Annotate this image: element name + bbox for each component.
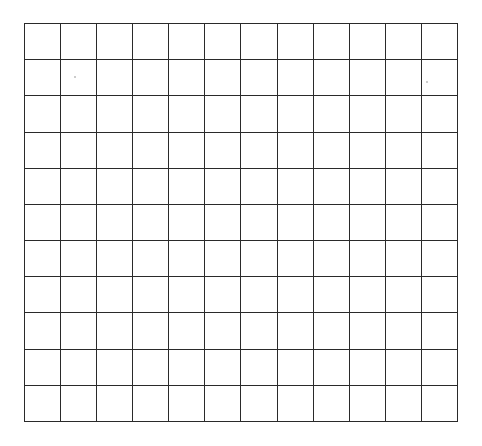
grid-cell: [132, 240, 168, 276]
grid-cell: [24, 23, 60, 59]
grid-cell: [132, 168, 168, 204]
grid-cell: [421, 168, 457, 204]
grid-cell: [349, 240, 385, 276]
grid-cell: [24, 312, 60, 348]
grid-cell: [204, 95, 240, 131]
grid-cell: [60, 168, 96, 204]
grid-cell: [24, 168, 60, 204]
grid-cell: [385, 349, 421, 385]
grid-cell: [385, 312, 421, 348]
grid-cell: [96, 240, 132, 276]
grid-cell: [277, 312, 313, 348]
grid-cell: [385, 132, 421, 168]
grid-cell: [96, 349, 132, 385]
grid-cell: [349, 59, 385, 95]
grid-cell: [204, 23, 240, 59]
grid-cell: [24, 132, 60, 168]
grid-cell: [349, 349, 385, 385]
grid-cell: [96, 132, 132, 168]
grid-cell: [277, 23, 313, 59]
grid-cell: [313, 240, 349, 276]
grid-cell: [240, 59, 276, 95]
grid-cell: [204, 385, 240, 421]
grid-cell: [132, 204, 168, 240]
grid-cell: [204, 312, 240, 348]
speck-mark: [426, 81, 428, 83]
grid-cell: [240, 132, 276, 168]
grid-cell: [240, 385, 276, 421]
grid-cell: [421, 204, 457, 240]
grid-cell: [240, 312, 276, 348]
blank-grid: [24, 23, 458, 422]
grid-cell: [132, 349, 168, 385]
grid-cell: [240, 240, 276, 276]
grid-cell: [60, 132, 96, 168]
grid-cell: [168, 132, 204, 168]
grid-cell: [277, 59, 313, 95]
grid-cell: [277, 204, 313, 240]
grid-cell: [132, 95, 168, 131]
grid-cell: [385, 95, 421, 131]
grid-cell: [24, 240, 60, 276]
grid-cell: [96, 168, 132, 204]
grid-cell: [132, 385, 168, 421]
grid-cell: [421, 312, 457, 348]
grid-cell: [60, 59, 96, 95]
grid-cell: [421, 23, 457, 59]
grid-cell: [60, 312, 96, 348]
grid-cell: [60, 204, 96, 240]
grid-cell: [96, 385, 132, 421]
grid-cell: [60, 385, 96, 421]
grid-cell: [385, 276, 421, 312]
grid-cell: [204, 349, 240, 385]
grid-cell: [60, 23, 96, 59]
grid-cell: [240, 168, 276, 204]
grid-cell: [24, 95, 60, 131]
grid-cell: [421, 59, 457, 95]
grid-cell: [385, 23, 421, 59]
grid-cell: [313, 95, 349, 131]
grid-cell: [385, 59, 421, 95]
grid-cell: [204, 59, 240, 95]
grid-cell: [132, 312, 168, 348]
grid-cell: [24, 385, 60, 421]
grid-cell: [132, 59, 168, 95]
grid-cell: [313, 132, 349, 168]
grid-cell: [277, 385, 313, 421]
grid-cell: [277, 349, 313, 385]
grid-cell: [204, 132, 240, 168]
grid-cell: [349, 23, 385, 59]
grid-cell: [385, 385, 421, 421]
grid-cell: [313, 312, 349, 348]
grid-cell: [96, 23, 132, 59]
grid-cell: [168, 276, 204, 312]
grid-cell: [96, 95, 132, 131]
grid-cell: [349, 276, 385, 312]
grid-cell: [421, 132, 457, 168]
grid-cell: [168, 349, 204, 385]
grid-cell: [421, 349, 457, 385]
grid-cell: [240, 23, 276, 59]
grid-cell: [313, 59, 349, 95]
grid-cell: [132, 132, 168, 168]
grid-cell: [168, 312, 204, 348]
grid-cell: [132, 23, 168, 59]
grid-cell: [313, 168, 349, 204]
grid-cell: [313, 276, 349, 312]
grid-cell: [204, 204, 240, 240]
grid-cell: [313, 349, 349, 385]
grid-cell: [168, 23, 204, 59]
grid-cell: [421, 240, 457, 276]
grid-cell: [96, 59, 132, 95]
grid-cell: [24, 204, 60, 240]
grid-cell: [168, 385, 204, 421]
grid-cell: [421, 95, 457, 131]
grid-cell: [313, 204, 349, 240]
speck-mark: [74, 76, 76, 78]
grid-cell: [349, 168, 385, 204]
grid-cell: [240, 349, 276, 385]
grid-cell: [277, 132, 313, 168]
grid-cell: [96, 312, 132, 348]
grid-cell: [204, 240, 240, 276]
grid-cell: [277, 240, 313, 276]
